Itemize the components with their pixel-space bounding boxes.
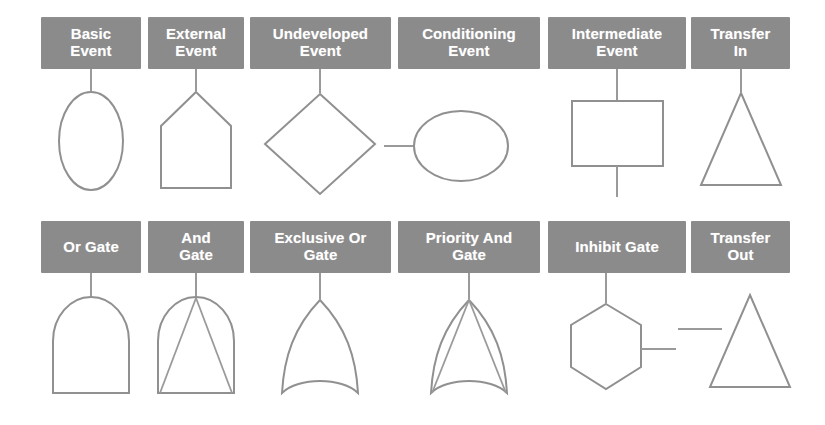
pointed-dome-concave-base	[282, 300, 358, 393]
shape-and-gate-dome	[148, 273, 244, 401]
label-line-2: In	[695, 43, 786, 60]
label-line-1: Or Gate	[45, 239, 137, 256]
label-line-2: Gate	[152, 247, 240, 264]
hexagon	[571, 304, 641, 389]
label-inhibit-gate: Inhibit Gate	[548, 221, 686, 273]
label-or-gate: Or Gate	[41, 221, 141, 273]
shape-transfer-out-triangle	[670, 285, 800, 401]
label-external-event: External Event	[148, 17, 244, 69]
shape-undeveloped-event-diamond	[250, 69, 391, 191]
label-line-1: And	[152, 230, 240, 247]
label-line-2: Gate	[402, 247, 536, 264]
ellipse-horizontal	[414, 111, 508, 181]
label-transfer-out: Transfer Out	[691, 221, 790, 273]
label-line-1: Basic	[45, 26, 137, 43]
dome	[158, 297, 234, 393]
label-line-1: Priority And	[402, 230, 536, 247]
inner-line-right	[196, 298, 232, 393]
inner-line-left	[432, 300, 469, 393]
label-line-2: Event	[45, 43, 137, 60]
shape-intermediate-event-rectangle	[548, 69, 686, 199]
label-transfer-in: Transfer In	[691, 17, 790, 69]
label-line-2: Event	[552, 43, 682, 60]
label-line-2: Event	[152, 43, 240, 60]
shape-exclusive-or-gate	[250, 273, 391, 401]
label-priority-and-gate: Priority And Gate	[398, 221, 540, 273]
shape-basic-event-ellipse	[41, 69, 141, 191]
label-line-1: Undeveloped	[254, 26, 387, 43]
shape-or-gate-dome	[41, 273, 141, 401]
label-line-2: Out	[695, 247, 786, 264]
fault-tree-symbol-legend: Basic Event External Event	[0, 0, 825, 425]
dome	[53, 297, 129, 393]
shape-priority-and-gate	[398, 273, 540, 401]
label-conditioning-event: Conditioning Event	[398, 17, 540, 69]
shape-transfer-in-triangle	[691, 69, 790, 191]
house-pentagon	[161, 92, 231, 188]
label-line-1: External	[152, 26, 240, 43]
symbol-grid: Basic Event External Event	[0, 0, 825, 425]
label-line-2: Event	[402, 43, 536, 60]
ellipse-vertical	[59, 92, 123, 190]
label-line-1: Transfer	[695, 26, 786, 43]
label-line-2: Event	[254, 43, 387, 60]
diamond	[265, 94, 375, 194]
inner-line-right	[469, 300, 506, 393]
rectangle	[572, 101, 663, 166]
label-intermediate-event: Intermediate Event	[548, 17, 686, 69]
shape-conditioning-event-ellipse	[382, 100, 542, 190]
label-line-1: Inhibit Gate	[552, 239, 682, 256]
label-undeveloped-event: Undeveloped Event	[250, 17, 391, 69]
inner-line-left	[160, 298, 196, 393]
label-and-gate: And Gate	[148, 221, 244, 273]
label-line-1: Transfer	[695, 230, 786, 247]
label-line-2: Gate	[254, 247, 387, 264]
label-line-1: Exclusive Or	[254, 230, 387, 247]
triangle	[701, 93, 781, 185]
label-line-1: Conditioning	[402, 26, 536, 43]
label-exclusive-or-gate: Exclusive Or Gate	[250, 221, 391, 273]
pointed-dome-concave-base	[431, 300, 507, 393]
label-line-1: Intermediate	[552, 26, 682, 43]
label-basic-event: Basic Event	[41, 17, 141, 69]
triangle	[710, 295, 790, 387]
shape-external-event-house	[148, 69, 244, 191]
